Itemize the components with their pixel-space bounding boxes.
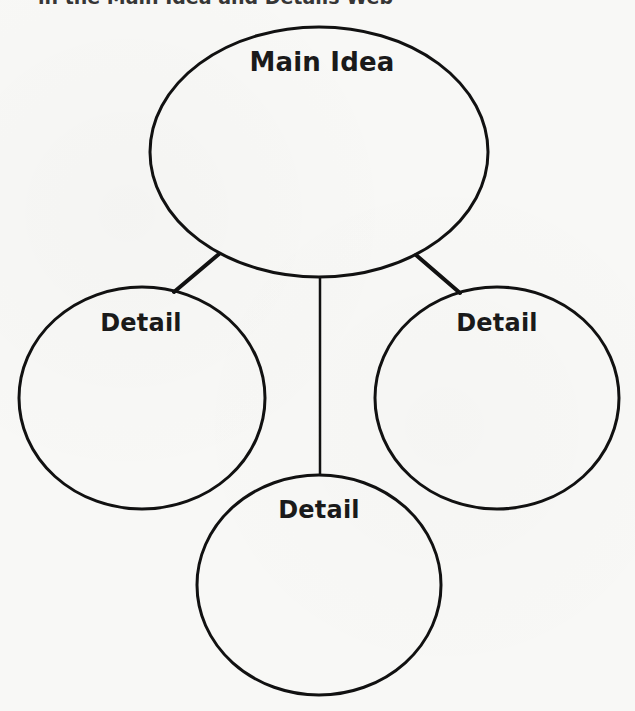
main-idea-label: Main Idea [249,47,394,77]
connector-left [174,254,219,292]
main-idea-web-diagram [0,0,635,711]
connector-right [416,255,460,293]
detail-label-bottom: Detail [278,496,360,524]
detail-label-right: Detail [456,309,538,337]
detail-label-left: Detail [100,309,182,337]
worksheet-page: in the Main Idea and Details Web Main Id… [0,0,635,711]
